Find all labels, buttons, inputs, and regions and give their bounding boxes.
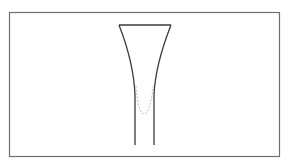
frame-border (10, 13, 280, 157)
vessel-left-wall (119, 25, 135, 145)
dashed-meniscus-curve (136, 86, 153, 114)
vessel-right-wall (154, 25, 171, 145)
diagram-canvas (0, 0, 294, 165)
diagram-svg (0, 0, 294, 165)
